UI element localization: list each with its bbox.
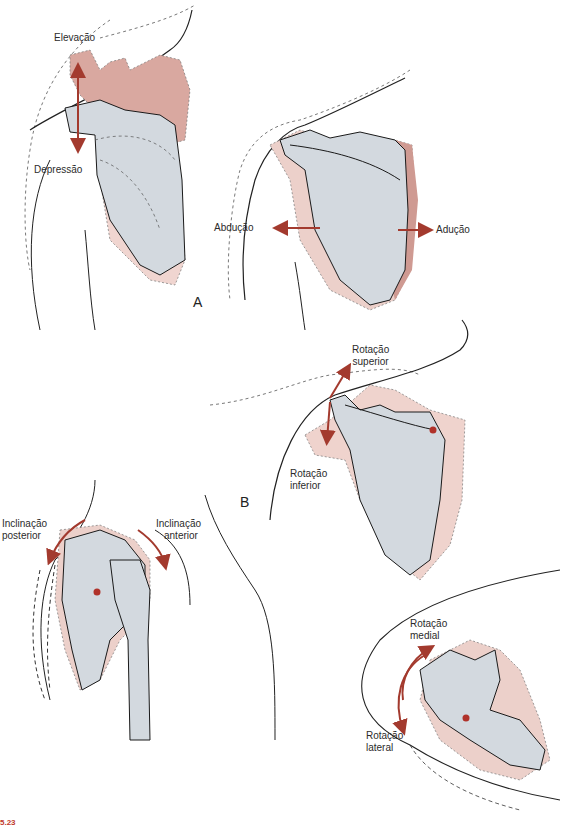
label-medial-rotation: Rotação medial (410, 618, 447, 642)
label-posterior-tilt: Inclinação posterior (2, 518, 47, 542)
upward-downward-rotation-view (210, 320, 468, 580)
figure-number: 5.23 (0, 818, 16, 827)
label-anterior-tilt: Inclinação anterior (156, 518, 201, 542)
label-lateral-rotation: Rotação lateral (366, 730, 403, 754)
pivot-point (94, 589, 101, 596)
label-depression: Depressão (34, 164, 82, 176)
panel-label-a: A (193, 294, 202, 310)
scapular-motion-diagram (0, 0, 576, 832)
figure-caption: 5.23 (0, 818, 16, 827)
label-upward-rotation: Rotação superior (352, 344, 389, 368)
abduction-adduction-view (228, 70, 428, 330)
pivot-point (463, 715, 470, 722)
medial-lateral-rotation-view (362, 570, 560, 810)
label-abduction: Abdução (214, 222, 253, 234)
pivot-point (430, 427, 437, 434)
panel-label-b: B (240, 494, 249, 510)
label-downward-rotation: Rotação inferior (290, 468, 327, 492)
label-adduction: Adução (436, 224, 470, 236)
tilt-view (33, 480, 275, 740)
label-elevation: Elevação (54, 32, 95, 44)
